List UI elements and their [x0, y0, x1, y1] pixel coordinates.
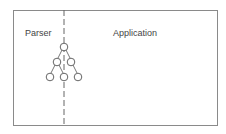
tree-node-root: [60, 43, 68, 51]
tree-diagram: [0, 0, 226, 134]
tree-nodes: [46, 43, 82, 81]
tree-node: [74, 73, 82, 81]
tree-node: [53, 58, 61, 66]
tree-node: [46, 73, 54, 81]
tree-node: [67, 58, 75, 66]
tree-node: [60, 73, 68, 81]
